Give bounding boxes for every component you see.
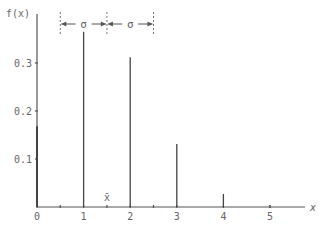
x-tick-label: 2 xyxy=(127,211,133,222)
arrowhead-right-icon xyxy=(101,22,106,27)
x-tick-label: 5 xyxy=(267,211,273,222)
x-tick-label: 4 xyxy=(220,211,226,222)
sigma-label: σ xyxy=(80,18,87,31)
y-tick-label: 0.1 xyxy=(14,154,32,165)
arrowhead-left-icon xyxy=(61,22,66,27)
arrowhead-left-icon xyxy=(108,22,113,27)
x-tick-label: 1 xyxy=(81,211,87,222)
y-axis-label: f(x) xyxy=(6,9,30,19)
x-tick-label: 0 xyxy=(34,211,40,222)
y-tick-label: 0.3 xyxy=(14,58,32,69)
x-axis-label: x xyxy=(310,203,316,213)
y-tick-label: 0.2 xyxy=(14,106,32,117)
sigma-label: σ xyxy=(127,18,134,31)
arrowhead-right-icon xyxy=(148,22,153,27)
pmf-chart: 0.10.20.3012345x̄σσ xyxy=(0,0,333,231)
mean-label: x̄ xyxy=(104,192,110,203)
x-tick-label: 3 xyxy=(174,211,180,222)
